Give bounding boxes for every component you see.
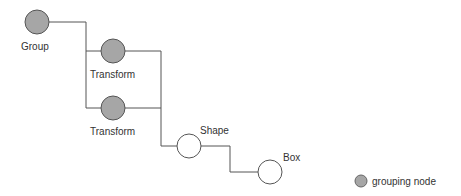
legend: grouping node	[355, 175, 436, 187]
scene-graph-diagram: Group Transform Transform Shape Box grou…	[0, 0, 461, 196]
node-group	[25, 10, 49, 34]
edge-group-transforms	[49, 22, 101, 108]
legend-label: grouping node	[372, 176, 436, 187]
node-box-label: Box	[283, 152, 300, 163]
legend-grouping-node-icon	[355, 175, 367, 187]
node-box	[258, 160, 282, 184]
node-transform-1-label: Transform	[90, 69, 135, 80]
edge-shape-box	[201, 146, 258, 172]
edges	[49, 22, 258, 172]
node-group-label: Group	[21, 41, 49, 52]
node-shape-label: Shape	[200, 125, 229, 136]
node-transform-2	[101, 96, 125, 120]
node-transform-1	[101, 39, 125, 63]
node-transform-2-label: Transform	[90, 126, 135, 137]
node-shape	[177, 134, 201, 158]
